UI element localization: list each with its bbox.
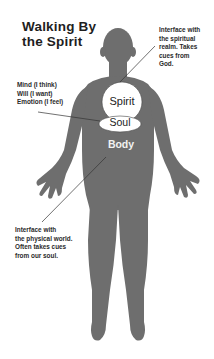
annotation-line: Interface with bbox=[15, 226, 73, 235]
right-leg-shape bbox=[118, 205, 148, 341]
annotation-line: from our soul. bbox=[15, 252, 73, 261]
annotation-line: the physical world. bbox=[15, 235, 73, 244]
annotation-line: cues from bbox=[159, 52, 200, 61]
annotation-line: Mind (I think) bbox=[17, 81, 63, 90]
annotation-line: realm. Takes bbox=[159, 43, 200, 52]
diagram-canvas: Walking By the Spirit Spirit Soul Body I… bbox=[0, 0, 214, 359]
body-annotation: Interface with the physical world. Often… bbox=[15, 226, 73, 260]
right-arm-shape bbox=[148, 86, 200, 198]
soul-annotation: Mind (I think) Will (I want) Emotion (I … bbox=[17, 81, 63, 107]
annotation-line: Emotion (I feel) bbox=[17, 98, 63, 107]
diagram-title: Walking By the Spirit bbox=[22, 19, 96, 49]
annotation-line: Often takes cues bbox=[15, 243, 73, 252]
annotation-line: Will (I want) bbox=[17, 90, 63, 99]
title-line-2: the Spirit bbox=[22, 34, 96, 49]
annotation-line: God. bbox=[159, 60, 200, 69]
spirit-label: Spirit bbox=[98, 95, 146, 107]
annotation-line: the spiritual bbox=[159, 35, 200, 44]
title-line-1: Walking By bbox=[22, 19, 96, 34]
body-label: Body bbox=[100, 138, 142, 150]
soul-label: Soul bbox=[103, 116, 137, 128]
spirit-annotation: Interface with the spiritual realm. Take… bbox=[159, 26, 200, 69]
left-leg-shape bbox=[88, 205, 118, 341]
annotation-line: Interface with bbox=[159, 26, 200, 35]
